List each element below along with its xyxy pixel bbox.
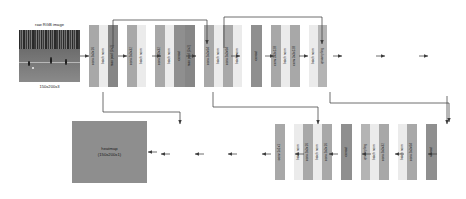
skip-bot-a [103,92,180,124]
skip-bot-c [330,92,449,122]
skip-top-b [224,17,322,48]
connection-wires [0,0,466,199]
skip-bot-b [213,92,318,124]
architecture-diagram: raw RGB image 150x200x3 heatmap (150x200… [0,0,466,199]
skip-top-a [113,20,207,48]
